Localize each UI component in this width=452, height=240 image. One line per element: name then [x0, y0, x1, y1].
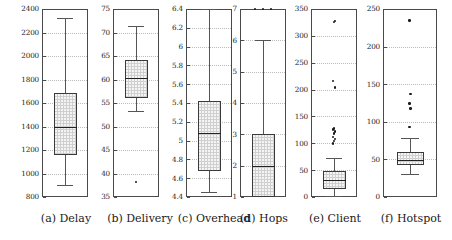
y-tick-mark — [384, 197, 387, 198]
outlier-point — [409, 107, 412, 110]
y-tick-label: 200 — [355, 43, 380, 50]
box-f — [397, 152, 424, 165]
upper-whisker-cap — [401, 138, 419, 139]
y-tick-mark — [384, 159, 387, 160]
median-line-f — [397, 160, 424, 161]
y-tick-label: 50 — [355, 156, 380, 163]
y-tick-label: 100 — [355, 118, 380, 125]
y-tick-mark — [384, 84, 387, 85]
lower-whisker-cap — [401, 174, 419, 175]
boxplot-figure: 80010001200140016001800200022002400(a) D… — [0, 0, 452, 240]
y-tick-mark — [384, 47, 387, 48]
outlier-point — [408, 102, 411, 105]
y-tick-label: 150 — [355, 81, 380, 88]
gridline — [384, 84, 436, 85]
y-tick-label: 0 — [355, 193, 380, 200]
outlier-point — [409, 93, 412, 96]
y-tick-mark — [384, 9, 387, 10]
caption-f: (f) Hotspot — [358, 212, 452, 225]
gridline — [384, 47, 436, 48]
y-tick-label: 250 — [355, 5, 380, 12]
outlier-point — [408, 19, 411, 22]
upper-whisker — [410, 138, 411, 152]
y-tick-mark — [384, 122, 387, 123]
gridline — [384, 122, 436, 123]
lower-whisker — [410, 165, 411, 175]
panel-f: 050100150200250(f) Hotspot — [0, 0, 452, 240]
